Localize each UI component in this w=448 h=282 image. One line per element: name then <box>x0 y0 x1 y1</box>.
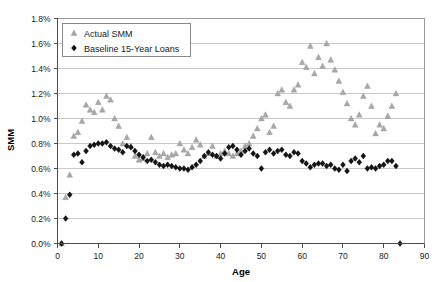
data-point <box>259 166 264 172</box>
data-point <box>112 146 117 152</box>
data-point <box>332 67 338 72</box>
data-point <box>312 71 318 76</box>
data-point <box>299 59 305 64</box>
y-axis-title: SMM <box>5 129 16 151</box>
x-tick-label: 0 <box>55 251 60 261</box>
data-point <box>181 166 186 172</box>
data-point <box>263 149 268 155</box>
data-point <box>133 148 138 154</box>
data-point <box>263 112 269 117</box>
data-point <box>267 147 272 153</box>
data-point <box>352 122 358 127</box>
x-tick-label: 10 <box>94 251 104 261</box>
y-axis-ticks: 0.0%0.2%0.4%0.6%0.8%1.0%1.2%1.4%1.6%1.8% <box>31 14 57 249</box>
data-point <box>100 107 106 112</box>
y-tick-label: 1.4% <box>31 64 51 74</box>
data-point <box>63 216 68 222</box>
data-point <box>145 158 150 164</box>
y-tick-label: 1.2% <box>31 89 51 99</box>
data-point <box>316 54 322 59</box>
x-tick-label: 90 <box>420 251 430 261</box>
y-tick-label: 0.4% <box>31 189 51 199</box>
data-point <box>144 151 150 156</box>
data-point <box>295 82 301 87</box>
data-point <box>120 149 125 155</box>
data-point <box>84 148 89 154</box>
y-tick-label: 1.8% <box>31 14 51 24</box>
chart-container: 0.0%0.2%0.4%0.6%0.8%1.0%1.2%1.4%1.6%1.8%… <box>0 0 448 282</box>
data-point <box>197 142 203 147</box>
data-point <box>153 159 158 165</box>
data-point <box>181 147 187 152</box>
data-point <box>304 161 309 167</box>
data-point <box>389 158 394 164</box>
data-point <box>173 164 178 170</box>
data-point <box>247 146 252 152</box>
data-point <box>218 156 223 162</box>
data-point <box>234 147 239 153</box>
data-point <box>271 151 276 157</box>
data-point <box>92 142 97 148</box>
legend-label: Baseline 15-Year Loans <box>84 44 180 54</box>
data-point <box>189 144 195 149</box>
y-tick-label: 0.0% <box>31 239 51 249</box>
data-point <box>279 147 284 153</box>
data-point <box>296 151 301 157</box>
data-point <box>373 131 379 136</box>
data-point <box>369 164 374 170</box>
x-tick-label: 30 <box>175 251 185 261</box>
data-point <box>291 87 297 92</box>
data-point <box>95 99 101 104</box>
data-point <box>283 99 289 104</box>
x-tick-label: 60 <box>297 251 307 261</box>
data-point <box>328 162 333 168</box>
data-point <box>279 87 285 92</box>
data-point <box>275 148 280 154</box>
data-point <box>385 113 391 118</box>
data-point <box>67 192 72 198</box>
data-point <box>361 153 366 159</box>
data-point <box>137 152 142 158</box>
data-point <box>254 126 260 131</box>
y-tick-label: 0.2% <box>31 214 51 224</box>
data-point <box>80 159 85 165</box>
data-point <box>128 144 133 150</box>
x-axis-title: Age <box>232 266 250 277</box>
data-point <box>389 103 395 108</box>
data-point <box>226 144 231 150</box>
x-tick-label: 80 <box>379 251 389 261</box>
data-point <box>165 162 170 168</box>
data-point <box>75 129 81 134</box>
y-tick-label: 1.0% <box>31 114 51 124</box>
data-point <box>100 141 105 147</box>
y-tick-label: 0.8% <box>31 139 51 149</box>
data-point <box>340 162 345 168</box>
x-tick-label: 20 <box>134 251 144 261</box>
data-point <box>198 158 203 164</box>
data-point <box>349 158 354 164</box>
data-point <box>365 83 371 88</box>
data-point <box>267 129 273 134</box>
smm-scatter-chart: 0.0%0.2%0.4%0.6%0.8%1.0%1.2%1.4%1.6%1.8%… <box>0 0 448 282</box>
data-point <box>116 147 121 153</box>
data-point <box>287 153 292 159</box>
data-point <box>71 152 76 158</box>
x-axis-ticks: 0102030405060708090 <box>55 244 429 261</box>
data-point <box>320 63 326 68</box>
data-point <box>357 159 362 165</box>
data-point <box>149 157 154 163</box>
data-point <box>271 123 277 128</box>
data-point <box>75 151 80 157</box>
data-point <box>104 139 109 145</box>
data-point <box>161 151 167 156</box>
data-point <box>283 152 288 158</box>
x-tick-label: 70 <box>338 251 348 261</box>
data-point <box>124 134 130 139</box>
data-point <box>373 166 378 172</box>
data-point <box>173 151 179 156</box>
y-tick-label: 1.6% <box>31 39 51 49</box>
data-point <box>303 64 309 69</box>
data-point <box>83 102 89 107</box>
data-point <box>67 172 73 177</box>
data-point <box>353 156 358 162</box>
